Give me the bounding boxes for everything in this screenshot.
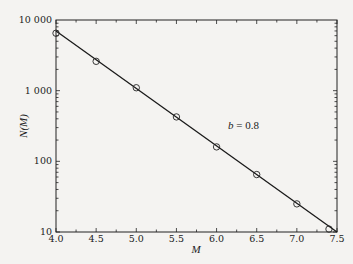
y-tick-label: 1 000 bbox=[25, 85, 52, 96]
y-tick-label: 10 bbox=[40, 226, 52, 237]
b-value: = 0.8 bbox=[234, 119, 260, 131]
magnitude-frequency-chart: 4.04.55.05.56.06.57.07.5 101001 00010 00… bbox=[0, 0, 353, 264]
y-tick-label: 10 000 bbox=[19, 14, 52, 25]
x-axis-label: M bbox=[190, 243, 201, 255]
x-tick-label: 4.5 bbox=[89, 233, 104, 244]
x-tick-label: 5.0 bbox=[129, 233, 144, 244]
plot-frame bbox=[56, 20, 337, 232]
axis-ticks bbox=[56, 20, 337, 232]
plot-border bbox=[56, 20, 337, 232]
b-value-annotation: b = 0.8 bbox=[228, 119, 259, 131]
x-tick-label: 7.0 bbox=[289, 233, 304, 244]
data-points bbox=[53, 30, 332, 232]
x-tick-label: 6.0 bbox=[209, 233, 224, 244]
x-tick-label: 5.5 bbox=[169, 233, 184, 244]
y-axis-label: N(M) bbox=[17, 114, 30, 139]
x-tick-label: 7.5 bbox=[329, 233, 344, 244]
y-tick-label: 100 bbox=[34, 155, 52, 166]
x-tick-label: 6.5 bbox=[249, 233, 264, 244]
